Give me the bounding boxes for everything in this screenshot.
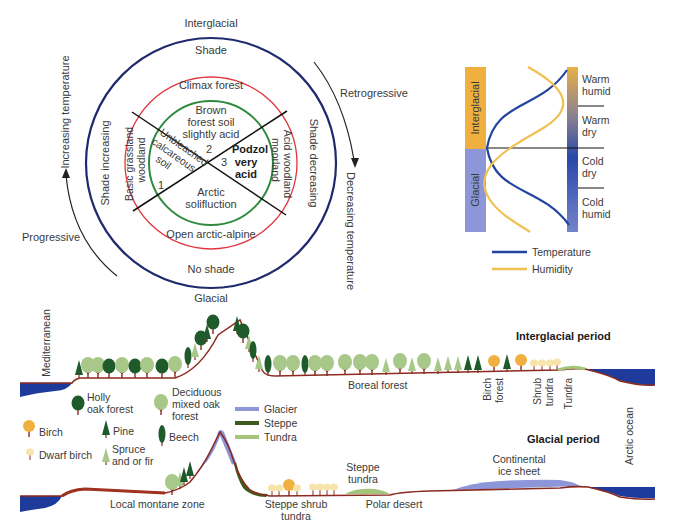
- cycle-diagram: Interglacial Glacial Shade No shade Shad…: [22, 17, 408, 304]
- legend-deciduous-3: forest: [172, 410, 198, 422]
- middle-right-label-2: moorland: [270, 138, 282, 182]
- legend-deciduous-1: Deciduous: [172, 386, 222, 398]
- steppe-tundra-mound: [345, 489, 390, 494]
- legend-holly-2: oak forest: [87, 403, 133, 415]
- inner-top-line-3: slightly acid: [183, 128, 240, 140]
- climate-chart: Interglacial Glacial Warm humid Warm dry…: [465, 67, 611, 275]
- legend-deciduous-2: mixed oak: [172, 398, 221, 410]
- continental-ice-label-2: ice sheet: [498, 465, 540, 477]
- progressive-label: Progressive: [22, 231, 80, 243]
- holly-oak-icon: [72, 396, 85, 416]
- legend-glacier: Glacier: [264, 403, 298, 415]
- continental-ice-label-1: Continental: [492, 453, 545, 465]
- inner-bottom-line-2: solifluction: [185, 198, 236, 210]
- legend-pine: Pine: [113, 425, 134, 437]
- cold-humid-2: humid: [582, 208, 611, 220]
- spruce-fir-icon: [102, 448, 110, 465]
- warm-dry-1: Warm: [582, 114, 610, 126]
- warm-dry-2: dry: [582, 126, 597, 138]
- boreal-forest-label: Boreal forest: [348, 379, 408, 391]
- deciduous-oak-icon: [154, 394, 168, 415]
- legend-spruce-2: and or fir: [112, 455, 154, 467]
- legend-humidity-label: Humidity: [532, 263, 574, 275]
- steppe-tundra-label-2: tundra: [348, 473, 378, 485]
- vegetation-legend: Holly oak forest Deciduous mixed oak for…: [23, 386, 298, 467]
- increasing-temperature-label: Increasing temperature: [59, 55, 71, 168]
- montane-red-band: [62, 489, 165, 496]
- legend-temperature-label: Temperature: [532, 246, 591, 258]
- outer-right-label: Shade decreasing: [308, 119, 320, 208]
- shrub-tundra-label-2: tundra: [544, 378, 555, 407]
- legend-dwarf-birch: Dwarf birch: [39, 449, 92, 461]
- inner-bottom-line-1: Arctic: [197, 186, 225, 198]
- birch-forest-label-1: Birch: [482, 378, 493, 401]
- warm-humid-2: humid: [582, 85, 611, 97]
- mediterranean-sea-glacial: [20, 496, 62, 512]
- legend-tundra: Tundra: [264, 431, 297, 443]
- middle-left-label-2: woodland: [135, 137, 147, 183]
- cold-dry-2: dry: [582, 167, 597, 179]
- inner-top-line-1: Brown: [195, 104, 226, 116]
- cycle-top-label: Interglacial: [184, 17, 237, 29]
- cold-humid-1: Cold: [582, 196, 604, 208]
- decreasing-temperature-label: Decreasing temperature: [345, 172, 357, 290]
- inner-right-line-3: acid: [235, 168, 257, 180]
- interglacial-trees: [75, 315, 561, 379]
- local-montane-label: Local montane zone: [110, 498, 205, 510]
- outer-bottom-label: No shade: [187, 263, 234, 275]
- steppe-tundra-label-1: Steppe: [346, 461, 379, 473]
- polar-desert-label: Polar desert: [366, 498, 423, 510]
- legend-steppe: Steppe: [264, 417, 297, 429]
- inner-right-line-1: Podzol: [232, 143, 268, 155]
- glacial-bar-label: Glacial: [469, 173, 481, 207]
- interglacial-bar-label: Interglacial: [469, 81, 481, 134]
- middle-right-label-1: Acid woodland: [282, 130, 294, 198]
- arctic-ocean-label: Arctic ocean: [623, 407, 635, 465]
- dwarf-birch-icon: [26, 449, 34, 461]
- middle-top-label: Climax forest: [179, 79, 243, 91]
- inner-left-number: 1: [158, 179, 164, 191]
- outer-top-label: Shade: [195, 44, 227, 56]
- steppe-shrub-label-1: Steppe shrub: [265, 498, 328, 510]
- mediterranean-sea: [20, 383, 72, 397]
- legend-spruce-1: Spruce: [112, 443, 145, 455]
- warm-humid-1: Warm: [582, 73, 610, 85]
- tundra-label: Tundra: [563, 378, 574, 410]
- cold-dry-1: Cold: [582, 155, 604, 167]
- middle-bottom-label: Open arctic-alpine: [166, 228, 255, 240]
- inner-top-number: 2: [206, 143, 212, 155]
- steppe-slope: [234, 462, 268, 497]
- birch-forest-label-2: forest: [494, 378, 505, 403]
- birch-icon: [23, 420, 35, 437]
- middle-left-label-1: Basic grassland: [123, 127, 135, 201]
- legend-holly-1: Holly: [87, 391, 111, 403]
- interglacial-period-title: Interglacial period: [516, 330, 611, 342]
- steppe-shrub-label-2: tundra: [281, 510, 311, 522]
- legend-birch: Birch: [39, 426, 63, 438]
- inner-right-number: 3: [221, 156, 227, 168]
- cycle-bottom-label: Glacial: [194, 292, 228, 304]
- retrogressive-arrowhead: [351, 158, 359, 168]
- retrogressive-label: Retrogressive: [340, 87, 408, 99]
- beech-icon: [159, 425, 166, 446]
- pine-icon: [102, 420, 110, 438]
- inner-right-line-2: very: [235, 156, 259, 168]
- mediterranean-label: Mediterranean: [40, 309, 52, 377]
- shrub-tundra-label-1: Shrub: [532, 378, 543, 405]
- climate-gradient-bar: [567, 67, 578, 232]
- glacial-period-title: Glacial period: [527, 433, 600, 445]
- legend-beech: Beech: [169, 431, 199, 443]
- outer-left-label: Shade increasing: [99, 120, 111, 205]
- inner-top-line-2: forest soil: [187, 116, 234, 128]
